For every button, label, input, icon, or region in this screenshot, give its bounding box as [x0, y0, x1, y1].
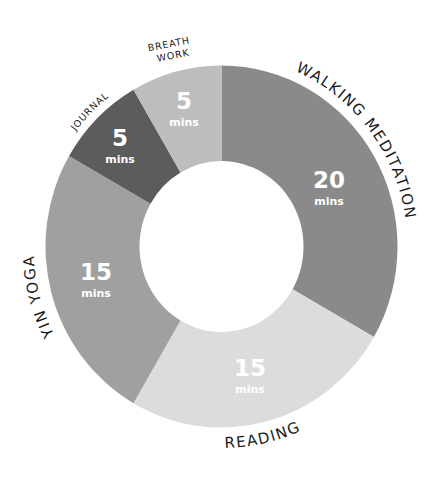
- value-yin-yoga: 15: [80, 259, 112, 285]
- unit-yin-yoga: mins: [81, 287, 111, 300]
- value-walking-meditation: 20: [313, 167, 345, 193]
- unit-reading: mins: [235, 383, 265, 396]
- value-breath-work: 5: [176, 88, 192, 114]
- value-journal: 5: [112, 125, 128, 151]
- unit-breath-work: mins: [169, 116, 199, 129]
- slice-walking-meditation: [222, 66, 398, 338]
- donut-chart-svg: 20 mins 15 mins 15 mins 5 mins 5 mins WA…: [0, 0, 443, 478]
- value-reading: 15: [234, 355, 266, 381]
- donut-chart: 20 mins 15 mins 15 mins 5 mins 5 mins WA…: [0, 0, 443, 478]
- donut-slices: [45, 66, 397, 428]
- unit-journal: mins: [105, 153, 135, 166]
- unit-walking-meditation: mins: [314, 195, 344, 208]
- label-breath-work: BREATH WORK: [147, 34, 193, 65]
